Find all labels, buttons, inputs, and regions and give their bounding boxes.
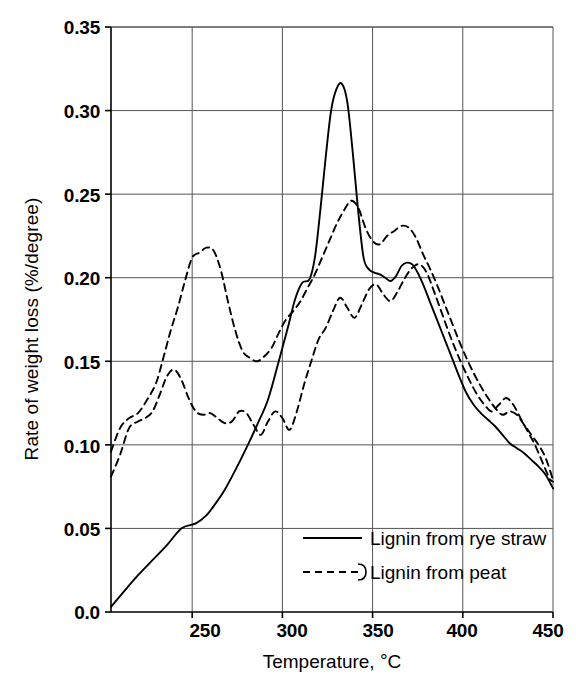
- legend-label-peat: Lignin from peat: [370, 562, 506, 584]
- y-axis-title: Rate of weight loss (%/degree): [21, 109, 43, 549]
- data-series-line: [111, 264, 553, 481]
- legend-label-rye-straw: Lignin from rye straw: [370, 528, 546, 550]
- y-tick-label: 0.0: [14, 602, 100, 624]
- x-tick-label: 300: [257, 620, 327, 642]
- x-axis-title: Temperature, °C: [111, 650, 553, 673]
- legend-marks: [303, 538, 366, 580]
- y-tick-label: 0.25: [14, 185, 100, 207]
- x-tick-label: 250: [170, 620, 240, 642]
- degree-symbol-icon: °: [380, 650, 388, 671]
- y-tick-label: 0.20: [14, 268, 100, 290]
- y-tick-label: 0.05: [14, 519, 100, 541]
- x-tick-label: 350: [343, 620, 413, 642]
- chart-figure: Rate of weight loss (%/degree) Temperatu…: [0, 0, 576, 683]
- x-axis-title-unit: C: [388, 651, 402, 672]
- axis-lines: [111, 27, 553, 612]
- y-tick-label: 0.15: [14, 352, 100, 374]
- y-tick-label: 0.30: [14, 101, 100, 123]
- x-axis-title-main: Temperature,: [263, 651, 380, 672]
- data-series-line: [111, 201, 553, 480]
- y-tick-label: 0.10: [14, 436, 100, 458]
- y-tick-label: 0.35: [14, 17, 100, 39]
- x-tick-label: 400: [427, 620, 497, 642]
- legend-brace-icon: [358, 564, 366, 580]
- gridlines: [111, 27, 553, 612]
- x-tick-label: 450: [513, 620, 576, 642]
